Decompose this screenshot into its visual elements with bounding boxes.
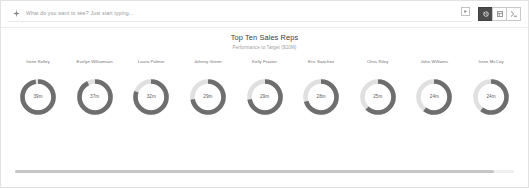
gauge-item[interactable]: Evelyn Williamson37m bbox=[72, 60, 118, 116]
clock-rewind-icon bbox=[482, 10, 490, 18]
donut-gauge: 39m bbox=[18, 77, 58, 117]
gauge-value: 25m bbox=[358, 77, 398, 117]
gauge-row: Irene Kelley39mEvelyn Williamson37mLaura… bbox=[1, 50, 528, 116]
gauge-item[interactable]: Chris Riley25m bbox=[355, 60, 401, 116]
terminal-icon bbox=[510, 10, 518, 18]
gauge-label: Evelyn Williamson bbox=[77, 60, 113, 64]
donut-gauge: 37m bbox=[75, 77, 115, 117]
gauge-item[interactable]: Laura Palmer32m bbox=[128, 60, 174, 116]
grid-icon bbox=[496, 10, 504, 18]
gauge-item[interactable]: Johnny Green29m bbox=[185, 60, 231, 116]
gauge-value: 24m bbox=[414, 77, 454, 117]
gauge-value: 29m bbox=[245, 77, 285, 117]
gauge-value: 39m bbox=[18, 77, 58, 117]
play-icon bbox=[463, 9, 468, 14]
donut-gauge: 24m bbox=[414, 77, 454, 117]
history-button[interactable] bbox=[478, 7, 493, 21]
search-submit-button[interactable] bbox=[461, 7, 470, 16]
donut-gauge: 29m bbox=[245, 77, 285, 117]
scrollbar-thumb[interactable] bbox=[15, 170, 494, 173]
gauge-item[interactable]: Irene McCoy24m bbox=[468, 60, 514, 116]
search-input[interactable]: What do you want to see? Just start typi… bbox=[26, 11, 133, 16]
gauge-value: 28m bbox=[301, 77, 341, 117]
table-view-button[interactable] bbox=[492, 7, 507, 21]
gauge-label: Laura Palmer bbox=[138, 60, 165, 64]
gauge-value: 32m bbox=[131, 77, 171, 117]
gauge-label: Chris Riley bbox=[367, 60, 389, 64]
gauge-label: Irene Kelley bbox=[26, 60, 50, 64]
horizontal-scrollbar[interactable] bbox=[15, 170, 514, 173]
gauge-item[interactable]: Eric Sanchez28m bbox=[298, 60, 344, 116]
gauge-label: John Williams bbox=[421, 60, 449, 64]
donut-gauge: 24m bbox=[471, 77, 511, 117]
gauge-value: 29m bbox=[188, 77, 228, 117]
sparkle-icon bbox=[12, 9, 21, 18]
chart-header: Top Ten Sales Reps Performance to Target… bbox=[1, 34, 528, 50]
gauge-label: Kelly Frazier bbox=[252, 60, 277, 64]
gauge-value: 37m bbox=[75, 77, 115, 117]
chart-title: Top Ten Sales Reps bbox=[1, 34, 528, 43]
gauge-item[interactable]: John Williams24m bbox=[411, 60, 457, 116]
view-button-group bbox=[478, 7, 521, 21]
gauge-item[interactable]: Kelly Frazier29m bbox=[242, 60, 288, 116]
gauge-label: Johnny Green bbox=[194, 60, 222, 64]
donut-gauge: 25m bbox=[358, 77, 398, 117]
donut-gauge: 28m bbox=[301, 77, 341, 117]
top-toolbar: What do you want to see? Just start typi… bbox=[1, 1, 528, 28]
console-button[interactable] bbox=[506, 7, 521, 21]
gauge-label: Irene McCoy bbox=[478, 60, 503, 64]
search-bar[interactable]: What do you want to see? Just start typi… bbox=[8, 6, 472, 22]
donut-gauge: 32m bbox=[131, 77, 171, 117]
donut-gauge: 29m bbox=[188, 77, 228, 117]
dashboard-window: What do you want to see? Just start typi… bbox=[0, 0, 529, 188]
gauge-item[interactable]: Irene Kelley39m bbox=[15, 60, 61, 116]
chart-panel: Top Ten Sales Reps Performance to Target… bbox=[1, 28, 528, 187]
gauge-value: 24m bbox=[471, 77, 511, 117]
gauge-label: Eric Sanchez bbox=[308, 60, 334, 64]
